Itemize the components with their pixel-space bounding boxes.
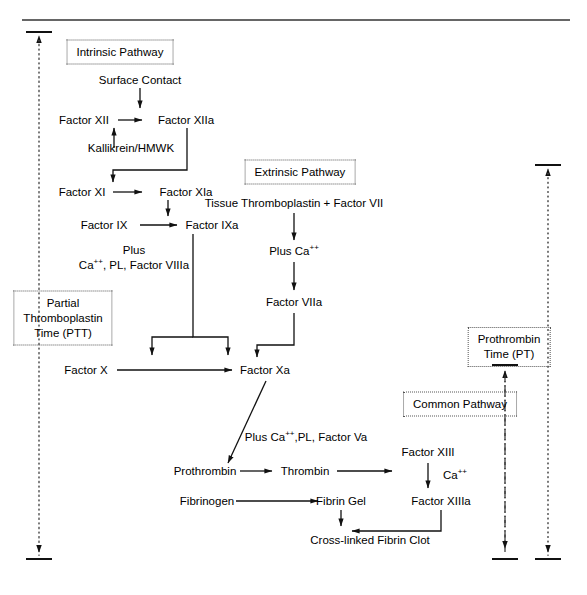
node-prothrombin: Prothrombin — [174, 464, 237, 478]
node-plus-common-cofactors: Plus Ca++,PL, Factor Va — [245, 430, 367, 444]
coagulation-cascade-diagram: Intrinsic Pathway Extrinsic Pathway Part… — [0, 0, 587, 595]
node-factor-xiia: Factor XIIa — [158, 113, 214, 127]
pathway-box-ptt: Partial Thromboplastin Time (PTT) — [13, 291, 112, 346]
plus-ca-charge-superscript: ++ — [309, 243, 318, 252]
node-plus-intrinsic-cofactors: Plus Ca++, PL, Factor VIIIa — [79, 243, 189, 273]
path-xiiia-to-clot — [352, 510, 441, 531]
node-factor-ixa: Factor IXa — [185, 218, 238, 232]
plus-intrinsic-line-2: Ca++, PL, Factor VIIIa — [79, 258, 189, 273]
ptt-line-3: Time (PTT) — [23, 326, 102, 341]
plus-intrinsic-line-1: Plus — [79, 243, 189, 258]
pathway-box-extrinsic: Extrinsic Pathway — [245, 160, 356, 185]
node-factor-xiii: Factor XIII — [401, 445, 454, 459]
pathway-box-pt: Prothrombin Time (PT) — [468, 327, 551, 367]
node-factor-xi: Factor XI — [59, 185, 106, 199]
plus-common-ca-text: Plus Ca — [245, 431, 285, 443]
node-plus-calcium-extrinsic: Plus Ca++ — [269, 244, 319, 258]
node-fibrin-gel: Fibrin Gel — [316, 494, 366, 508]
path-xiia-to-xi-activation — [113, 128, 187, 182]
node-tissue-thromboplastin-factor-vii: Tissue Thromboplastin + Factor VII — [205, 196, 384, 210]
node-factor-xii: Factor XII — [59, 113, 109, 127]
arrow-xa-to-prothrombin-conversion — [228, 381, 266, 463]
plus-ca-text: Plus Ca — [269, 245, 309, 257]
node-kallikrein-hmwk: Kallikrein/HMWK — [88, 141, 174, 155]
ptt-line-1: Partial — [23, 296, 102, 311]
ca-text: Ca — [79, 259, 94, 271]
ptt-line-2: Thromboplastin — [23, 311, 102, 326]
node-surface-contact: Surface Contact — [99, 73, 181, 87]
node-cross-linked-fibrin-clot: Cross-linked Fibrin Clot — [310, 533, 430, 547]
node-fibrinogen: Fibrinogen — [180, 494, 234, 508]
node-factor-xa: Factor Xa — [240, 363, 290, 377]
path-ixa-to-xa — [193, 234, 228, 355]
node-factor-xiiia: Factor XIIIa — [411, 494, 470, 508]
pt-line-1: Prothrombin — [478, 332, 541, 347]
node-thrombin: Thrombin — [281, 464, 330, 478]
plus-intrinsic-rest: , PL, Factor VIIIa — [103, 259, 189, 271]
node-factor-ix: Factor IX — [81, 218, 128, 232]
plus-common-charge-superscript: ++ — [285, 429, 294, 438]
path-viia-to-xa — [257, 313, 294, 357]
pt-line-2: Time (PT) — [478, 347, 541, 362]
ca-cofactor-charge-superscript: ++ — [458, 467, 467, 476]
ca-charge-superscript: ++ — [94, 257, 103, 266]
plus-common-rest: ,PL, Factor Va — [294, 431, 367, 443]
node-factor-x: Factor X — [64, 363, 107, 377]
node-calcium-cofactor-xiii: Ca++ — [443, 468, 467, 482]
node-factor-viia: Factor VIIa — [266, 295, 322, 309]
ca-cofactor-text: Ca — [443, 469, 458, 481]
path-tenase-to-factor-x — [152, 337, 193, 355]
pathway-box-common: Common Pathway — [403, 392, 517, 417]
pathway-box-intrinsic: Intrinsic Pathway — [67, 40, 174, 65]
